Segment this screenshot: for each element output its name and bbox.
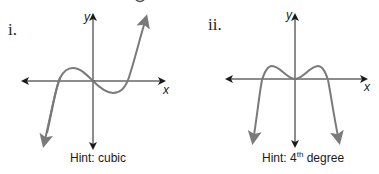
graph-i: y x xyxy=(23,10,170,148)
graph-i-hint: Hint: cubic xyxy=(70,151,126,165)
graph-i-x-label: x xyxy=(162,83,170,97)
graph-i-hint-text: Hint: cubic xyxy=(70,151,126,165)
graph-i-y-label: y xyxy=(83,10,91,24)
graph-ii: y x xyxy=(227,8,371,146)
header-fragment xyxy=(136,0,144,2)
graphs-canvas: y x y x xyxy=(0,0,379,174)
graph-ii-hint: Hint: 4th degree xyxy=(262,151,344,165)
graph-i-cubic-curve xyxy=(47,18,146,133)
graph-ii-y-label: y xyxy=(285,8,293,22)
graph-ii-x-label: x xyxy=(363,80,371,94)
graph-ii-hint-prefix: Hint: 4 xyxy=(262,151,297,165)
graph-ii-hint-suffix: degree xyxy=(303,151,344,165)
